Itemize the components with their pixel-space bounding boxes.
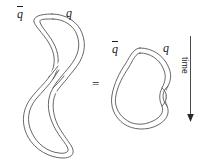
- left-quark-label: q: [66, 7, 72, 19]
- equals-sign: =: [92, 76, 99, 92]
- time-axis-arrow: [187, 36, 194, 122]
- figure-root: q q q q = time: [0, 0, 220, 163]
- right-single-loop-band: [112, 48, 171, 129]
- left-antiquark-letter: q: [17, 7, 23, 21]
- right-band-inner-edge: [115, 53, 165, 124]
- down-arrow-icon: [187, 114, 194, 122]
- right-quark-label: q: [163, 42, 169, 54]
- right-antiquark-glyph: q: [112, 41, 118, 55]
- right-antiquark-letter: q: [112, 42, 118, 56]
- left-antiquark-label: q: [17, 6, 23, 20]
- left-antiquark-glyph: q: [17, 6, 23, 20]
- time-axis-label: time: [180, 57, 190, 74]
- left-band-inner-edge: [29, 19, 79, 153]
- left-figure-eight-band: [23, 14, 84, 158]
- right-antiquark-label: q: [112, 41, 118, 55]
- diagram-canvas: [0, 0, 220, 163]
